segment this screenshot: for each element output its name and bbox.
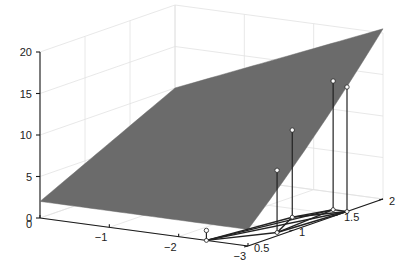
z-tick-label: 15: [20, 88, 32, 100]
y-tick-label: 1: [299, 226, 305, 238]
base-point: [204, 238, 208, 242]
surface-plot: 051015200−1−2−30.511.52: [0, 0, 417, 267]
y-tick-label: 0.5: [254, 242, 269, 254]
base-point: [331, 208, 335, 212]
base-point: [275, 231, 279, 235]
gridline-z-left: [40, 5, 175, 52]
y-tick-label: 1.5: [344, 211, 359, 223]
y-tick: [244, 246, 248, 247]
data-point: [345, 85, 349, 89]
surface-layer: [40, 29, 383, 230]
z-tick-label: 20: [20, 46, 32, 58]
y-tick: [379, 199, 383, 200]
x-tick-label: −2: [164, 241, 177, 253]
y-tick-label: 2: [389, 195, 395, 207]
x-tick-label: 0: [26, 218, 32, 230]
y-tick: [289, 230, 293, 231]
base-point: [290, 215, 294, 219]
z-tick-label: 10: [20, 129, 32, 141]
x-tick-label: −3: [233, 250, 246, 262]
y-axis-line: [248, 199, 383, 246]
data-point: [331, 79, 335, 83]
x-tick-label: −1: [95, 231, 108, 243]
surface: [40, 29, 383, 230]
gridline-z-left: [40, 47, 175, 94]
data-point: [275, 168, 279, 172]
data-point: [204, 228, 208, 232]
gridline-z-right: [175, 5, 383, 33]
z-tick-label: 5: [26, 171, 32, 183]
data-point: [290, 128, 294, 132]
